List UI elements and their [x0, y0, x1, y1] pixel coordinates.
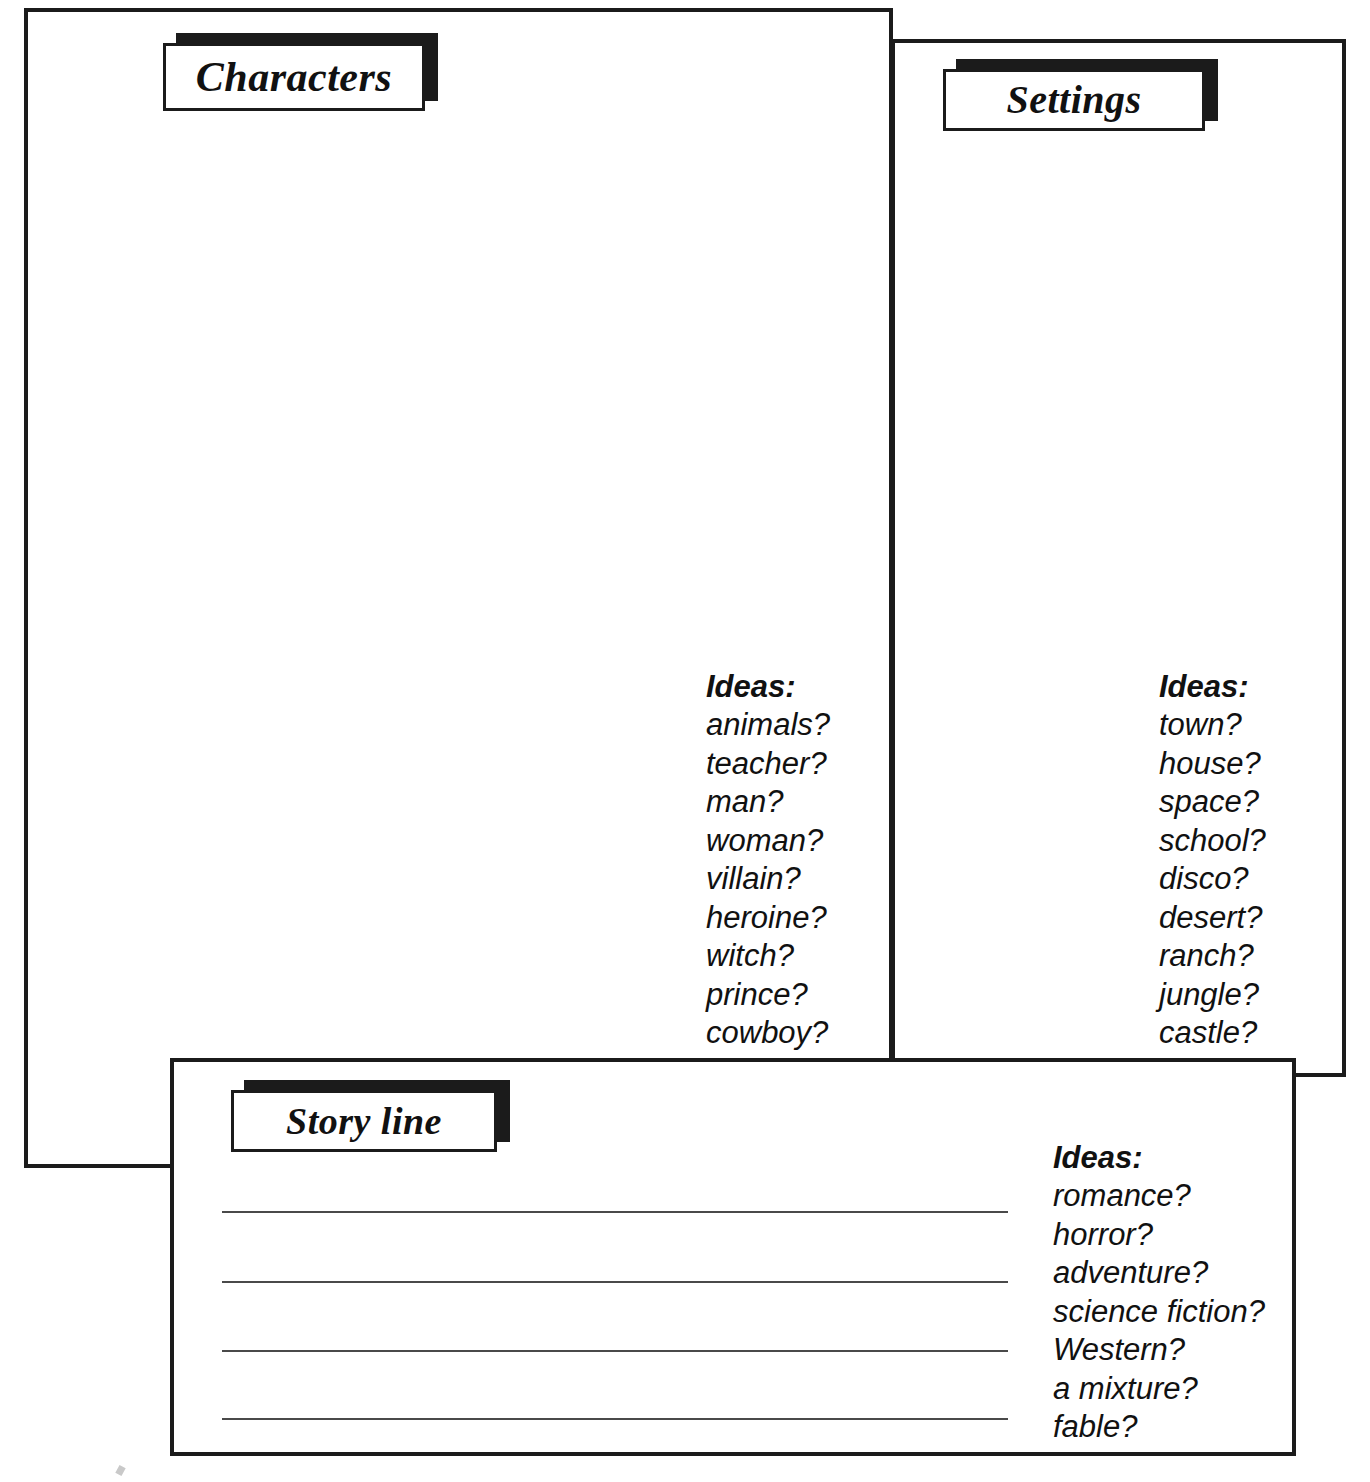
- ideas-item: adventure?: [1053, 1254, 1265, 1293]
- writing-line[interactable]: [222, 1418, 1008, 1420]
- ideas-item: prince?: [706, 976, 830, 1015]
- ideas-item: ranch?: [1159, 937, 1266, 976]
- story-planning-worksheet: Characters Settings Story line Ideas: an…: [0, 0, 1370, 1482]
- ideas-item: cowboy?: [706, 1014, 830, 1053]
- ideas-item: Western?: [1053, 1331, 1265, 1370]
- ideas-heading: Ideas:: [706, 668, 830, 706]
- writing-line[interactable]: [222, 1211, 1008, 1213]
- panel-title-settings: Settings: [1006, 80, 1141, 120]
- writing-line[interactable]: [222, 1350, 1008, 1352]
- ideas-item: disco?: [1159, 860, 1266, 899]
- panel-settings: [891, 39, 1346, 1077]
- ideas-item: villain?: [706, 860, 830, 899]
- panel-title-characters: Characters: [196, 56, 392, 98]
- title-plaque-box: Story line: [231, 1090, 497, 1152]
- ideas-item: romance?: [1053, 1177, 1265, 1216]
- writing-line[interactable]: [222, 1281, 1008, 1283]
- ideas-list-settings: Ideas: town? house? space? school? disco…: [1159, 668, 1266, 1053]
- ideas-item: house?: [1159, 745, 1266, 784]
- ideas-item: horror?: [1053, 1216, 1265, 1255]
- ideas-item: witch?: [706, 937, 830, 976]
- ideas-item: fable?: [1053, 1408, 1265, 1447]
- title-plaque-storyline: Story line: [231, 1090, 497, 1152]
- ideas-list-storyline: Ideas: romance? horror? adventure? scien…: [1053, 1139, 1265, 1447]
- title-plaque-characters: Characters: [163, 43, 425, 111]
- ideas-item: teacher?: [706, 745, 830, 784]
- ideas-item: man?: [706, 783, 830, 822]
- ideas-item: desert?: [1159, 899, 1266, 938]
- ideas-item: science fiction?: [1053, 1293, 1265, 1332]
- ideas-item: woman?: [706, 822, 830, 861]
- ideas-item: animals?: [706, 706, 830, 745]
- ideas-item: heroine?: [706, 899, 830, 938]
- title-plaque-box: Settings: [943, 69, 1205, 131]
- ideas-heading: Ideas:: [1159, 668, 1266, 706]
- ideas-heading: Ideas:: [1053, 1139, 1265, 1177]
- panel-title-storyline: Story line: [286, 1102, 442, 1140]
- ideas-item: castle?: [1159, 1014, 1266, 1053]
- ideas-item: space?: [1159, 783, 1266, 822]
- scan-speck: [115, 1465, 125, 1476]
- ideas-item: a mixture?: [1053, 1370, 1265, 1409]
- title-plaque-box: Characters: [163, 43, 425, 111]
- ideas-item: town?: [1159, 706, 1266, 745]
- ideas-item: jungle?: [1159, 976, 1266, 1015]
- title-plaque-settings: Settings: [943, 69, 1205, 131]
- ideas-list-characters: Ideas: animals? teacher? man? woman? vil…: [706, 668, 830, 1053]
- ideas-item: school?: [1159, 822, 1266, 861]
